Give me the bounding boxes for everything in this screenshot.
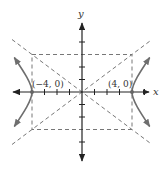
vertex-left-label: (−4, 0) (32, 79, 64, 89)
hyperbola-diagram: (−4, 0) (4, 0) x y (0, 0, 166, 170)
x-axis-label: x (153, 86, 159, 97)
vertex-left-point (30, 90, 34, 94)
vertex-right-label: (4, 0) (108, 79, 132, 89)
y-axis-label: y (77, 8, 84, 19)
vertex-right-point (130, 90, 134, 94)
diagram-canvas: (−4, 0) (4, 0) x y (0, 0, 166, 170)
